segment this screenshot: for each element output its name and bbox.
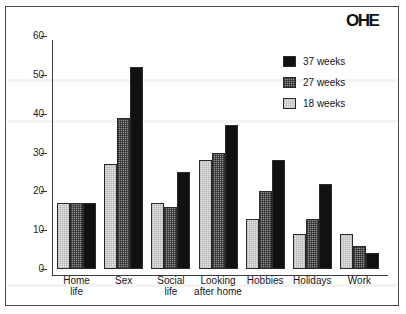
y-axis-tick-label-text: 40 <box>22 109 44 119</box>
bar <box>70 203 83 269</box>
y-axis-tick-label-text: 20 <box>22 186 44 196</box>
bar <box>130 67 143 269</box>
legend-label: 27 weeks <box>303 77 345 88</box>
bar <box>177 172 190 269</box>
ohe-logo: OHE <box>346 11 390 31</box>
bar <box>83 203 96 269</box>
bar <box>353 246 366 269</box>
bar <box>306 219 319 269</box>
y-axis-tick-label: 0 <box>18 264 44 274</box>
bar <box>319 184 332 269</box>
y-axis-tick-label: 60 <box>18 31 44 41</box>
y-axis-tick-label: 50 <box>18 70 44 80</box>
legend-swatch-icon <box>283 98 296 109</box>
ohe-logo-text: OHE <box>346 11 390 31</box>
bar <box>272 160 285 269</box>
y-axis-line <box>52 40 53 276</box>
chart-title <box>0 0 406 1</box>
legend-item-37-weeks[interactable]: 37 weeks <box>283 51 393 72</box>
bar <box>151 203 164 269</box>
legend-item-18-weeks[interactable]: 18 weeks <box>283 93 393 114</box>
bar <box>164 207 177 269</box>
bar <box>199 160 212 269</box>
legend-item-27-weeks[interactable]: 27 weeks <box>283 72 393 93</box>
bar <box>259 191 272 269</box>
y-axis-tick-label-text: 30 <box>22 148 44 158</box>
y-axis-tick-label: 10 <box>18 225 44 235</box>
figure-frame: OHE 37 weeks 27 weeks 18 weeks 010203040… <box>5 6 399 306</box>
y-axis-tick-label: 20 <box>18 186 44 196</box>
y-axis-tick-label: 40 <box>18 109 44 119</box>
legend-swatch-icon <box>283 77 296 88</box>
y-axis-tick-label-text: 0 <box>22 264 44 274</box>
scan-artifact-band <box>7 120 397 123</box>
bar <box>117 118 130 269</box>
legend-label: 18 weeks <box>303 98 345 109</box>
chart-legend: 37 weeks 27 weeks 18 weeks <box>283 51 393 114</box>
y-axis-tick-label: 30 <box>18 148 44 158</box>
x-axis-category-label: Work <box>330 275 389 286</box>
bar <box>340 234 353 269</box>
bar <box>246 219 259 269</box>
legend-swatch-icon <box>283 56 296 67</box>
bar <box>104 164 117 269</box>
y-axis-tick-label-text: 10 <box>22 225 44 235</box>
bar <box>57 203 70 269</box>
legend-label: 37 weeks <box>303 56 345 67</box>
bar <box>366 253 379 269</box>
bar <box>225 125 238 269</box>
y-axis-tick-label-text: 60 <box>22 31 44 41</box>
y-axis-tick-label-text: 50 <box>22 70 44 80</box>
bar <box>293 234 306 269</box>
bar <box>212 153 225 270</box>
